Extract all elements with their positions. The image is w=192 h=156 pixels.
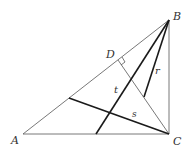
label-d: D [105,48,115,61]
label-t: t [114,84,119,95]
side-ab [23,20,169,134]
triangle-diagram: A B C D t r s [0,0,192,156]
label-r: r [155,65,161,76]
label-a: A [10,134,19,147]
right-angle-marker [121,57,125,65]
label-b: B [172,10,181,23]
segment-r [144,20,169,97]
altitude-cd [118,60,169,134]
label-s: s [132,109,137,119]
label-c: C [173,135,182,148]
segment-s [69,98,169,134]
